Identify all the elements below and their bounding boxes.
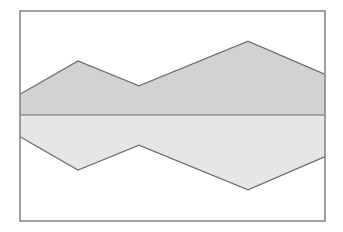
area-chart — [0, 0, 343, 232]
